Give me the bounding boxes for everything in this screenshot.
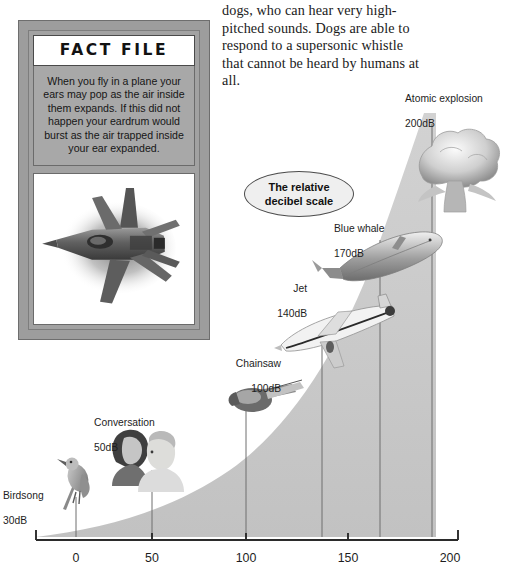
- label-birdsong-value: 30dB: [3, 515, 44, 528]
- label-atomic-explosion-value: 200dB: [405, 118, 483, 131]
- label-atomic-explosion: Atomic explosion 200dB: [405, 80, 483, 143]
- label-chainsaw-value: 100dB: [215, 383, 281, 396]
- fact-file-inner-frame: FACT FILE When you fly in a plane your e…: [28, 30, 200, 330]
- label-birdsong-name: Birdsong: [3, 490, 44, 503]
- label-conversation-name: Conversation: [94, 417, 155, 430]
- x-axis: [36, 530, 458, 540]
- fighter-jet-illustration: [34, 174, 194, 324]
- x-tick-label-50: 50: [145, 551, 159, 565]
- x-tick-label-0: 0: [73, 551, 80, 565]
- fact-file-text: When you fly in a plane your ears may po…: [33, 66, 195, 166]
- label-jet: Jet 140dB: [258, 270, 307, 333]
- article-body-text: dogs, who can hear very high-pitched sou…: [222, 2, 422, 90]
- label-birdsong: Birdsong 30dB: [3, 477, 44, 540]
- x-tick-label-200: 200: [440, 551, 461, 565]
- callout-line-1: The relative: [268, 181, 329, 193]
- label-jet-value: 140dB: [258, 308, 307, 321]
- label-blue-whale-name: Blue whale: [334, 223, 384, 236]
- label-conversation: Conversation 50dB: [94, 404, 155, 467]
- x-tick-label-100: 100: [236, 551, 257, 565]
- label-blue-whale-value: 170dB: [334, 248, 384, 261]
- label-chainsaw: Chainsaw 100dB: [215, 345, 281, 408]
- label-blue-whale: Blue whale 170dB: [334, 210, 384, 273]
- fighter-jet-photo: [33, 173, 195, 325]
- fact-file-panel: FACT FILE When you fly in a plane your e…: [18, 20, 210, 340]
- label-atomic-explosion-name: Atomic explosion: [405, 93, 483, 106]
- label-conversation-value: 50dB: [94, 442, 155, 455]
- callout-line-2: decibel scale: [265, 195, 334, 207]
- fact-file-title: FACT FILE: [60, 41, 168, 59]
- birdsong-icon: [57, 458, 92, 511]
- relative-decibel-scale-callout: The relative decibel scale: [244, 171, 354, 217]
- x-tick-label-150: 150: [338, 551, 359, 565]
- label-jet-name: Jet: [258, 283, 307, 296]
- page-root: dogs, who can hear very high-pitched sou…: [0, 0, 513, 574]
- label-chainsaw-name: Chainsaw: [215, 358, 281, 371]
- fact-file-title-bar: FACT FILE: [33, 35, 195, 66]
